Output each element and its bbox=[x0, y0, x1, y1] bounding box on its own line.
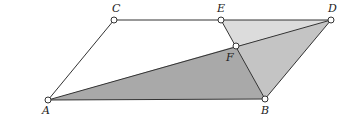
geometry-diagram: A B C D E F bbox=[0, 0, 339, 126]
label-e: E bbox=[217, 2, 225, 15]
label-f: F bbox=[226, 51, 234, 64]
label-d: D bbox=[328, 2, 337, 15]
label-a: A bbox=[42, 104, 50, 117]
point-e bbox=[218, 17, 224, 23]
point-b bbox=[262, 96, 268, 102]
point-a bbox=[45, 97, 51, 103]
point-f bbox=[233, 43, 239, 49]
label-c: C bbox=[112, 2, 120, 15]
diagram-svg bbox=[0, 0, 339, 126]
label-b: B bbox=[261, 104, 269, 117]
point-c bbox=[111, 17, 117, 23]
point-d bbox=[328, 17, 334, 23]
